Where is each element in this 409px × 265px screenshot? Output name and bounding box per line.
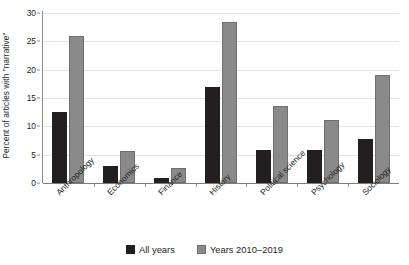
y-axis-line	[42, 11, 43, 183]
y-tick-mark	[37, 183, 40, 184]
y-tick-label: 20	[27, 65, 36, 75]
bar[interactable]	[358, 139, 373, 183]
y-axis-title-text: Percent of articles with "narrative"	[3, 32, 12, 158]
legend-swatch-icon	[197, 245, 206, 254]
y-tick-label: 30	[27, 8, 36, 18]
y-tick-label: 25	[27, 36, 36, 46]
legend-item[interactable]: All years	[126, 244, 175, 255]
y-tick-label: 10	[27, 121, 36, 131]
x-tick-mark	[348, 183, 349, 187]
x-tick-mark	[145, 183, 146, 187]
y-tick-mark	[37, 98, 40, 99]
plot-area	[43, 13, 399, 183]
y-tick-mark	[37, 13, 40, 14]
x-tick-mark	[246, 183, 247, 187]
y-tick-mark	[37, 154, 40, 155]
x-tick-mark	[94, 183, 95, 187]
legend-label: All years	[139, 244, 175, 255]
y-axis-ticks: 051015202530	[16, 8, 40, 190]
x-tick-mark	[297, 183, 298, 187]
y-axis-title: Percent of articles with "narrative"	[0, 0, 14, 190]
chart-legend: All yearsYears 2010–2019	[0, 244, 409, 255]
y-tick-label: 0	[31, 178, 36, 188]
y-tick-label: 15	[27, 93, 36, 103]
legend-swatch-icon	[126, 245, 135, 254]
legend-label: Years 2010–2019	[210, 244, 283, 255]
y-tick-label: 5	[31, 150, 36, 160]
y-tick-mark	[37, 126, 40, 127]
bar-group	[43, 13, 399, 183]
y-tick-mark	[37, 41, 40, 42]
x-tick-mark	[196, 183, 197, 187]
legend-item[interactable]: Years 2010–2019	[197, 244, 283, 255]
y-tick-mark	[37, 69, 40, 70]
